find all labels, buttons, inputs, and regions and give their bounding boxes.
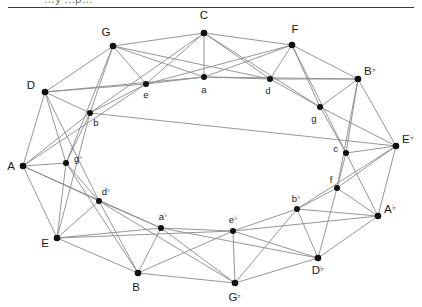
graph-edge [45, 92, 99, 201]
graph-edge [204, 33, 292, 45]
graph-node-label-D: D [27, 79, 35, 91]
graph-node-label-B: B [132, 281, 140, 293]
graph-edge [235, 258, 318, 283]
graph-edge [45, 46, 113, 92]
nodes-group: CGFDB♭AE♭EA♭BD♭G♭aedbgg♭cd♭fa♭b♭e♭ [7, 9, 413, 303]
graph-node-label-E: E [41, 237, 49, 249]
graph-node-C[interactable] [201, 30, 208, 37]
graph-node-label-G: G [102, 26, 111, 38]
graph-node-B[interactable] [135, 270, 142, 277]
graph-node-Eb[interactable] [393, 143, 400, 150]
graph-node-label-Bb: B♭ [364, 65, 376, 77]
graph-node-gb[interactable] [63, 160, 69, 166]
graph-edge [297, 209, 318, 258]
graph-node-label-gb: g♭ [74, 153, 82, 164]
graph-node-f[interactable] [334, 185, 340, 191]
graph-edge [146, 77, 204, 84]
graph-node-a[interactable] [201, 74, 207, 80]
graph-node-label-d: d [265, 85, 270, 96]
graph-edge [45, 92, 90, 113]
graph-node-E[interactable] [54, 235, 61, 242]
graph-edge [138, 231, 233, 273]
graph-node-b[interactable] [87, 110, 93, 116]
figure-canvas: …y …p… CGFDB♭AE♭EA♭BD♭G♭aedbgg♭cd♭fa♭b♭e… [0, 0, 422, 307]
graph-edge [204, 45, 292, 77]
graph-edge [337, 188, 378, 216]
graph-edge [346, 146, 396, 153]
graph-edge [297, 188, 337, 209]
graph-node-label-Db: D♭ [312, 264, 324, 276]
graph-edge [57, 113, 90, 238]
graph-node-g[interactable] [317, 104, 323, 110]
graph-edge [320, 79, 358, 107]
graph-edge [23, 166, 57, 238]
graph-node-label-C: C [200, 9, 208, 21]
graph-edge [57, 238, 138, 273]
graph-node-label-A: A [7, 160, 15, 172]
graph-node-label-F: F [291, 23, 298, 35]
graph-edge [45, 77, 204, 92]
graph-edge [318, 188, 337, 258]
graph-node-label-g: g [311, 113, 316, 124]
graph-edge [270, 79, 320, 107]
graph-edge [292, 45, 358, 79]
graph-node-F[interactable] [289, 42, 296, 49]
graph-node-Bb[interactable] [355, 76, 362, 83]
graph-node-label-e: e [143, 89, 148, 100]
graph-node-eb[interactable] [230, 228, 236, 234]
graph-node-label-f: f [330, 174, 333, 185]
graph-edge [318, 216, 378, 258]
graph-edge [233, 231, 235, 283]
graph-node-G[interactable] [110, 43, 117, 50]
graph-edge [337, 79, 358, 188]
graph-node-label-c: c [333, 143, 338, 154]
graph-node-label-Gb: G♭ [229, 291, 242, 303]
tonnetz-graph: CGFDB♭AE♭EA♭BD♭G♭aedbgg♭cd♭fa♭b♭e♭ [0, 0, 422, 307]
graph-node-D[interactable] [42, 89, 49, 96]
graph-node-bb[interactable] [294, 206, 300, 212]
graph-edge [99, 201, 161, 228]
graph-node-label-ab: a♭ [159, 211, 167, 222]
graph-node-e[interactable] [143, 81, 149, 87]
graph-node-label-bb: b♭ [292, 193, 300, 204]
graph-node-label-eb: e♭ [229, 214, 237, 225]
graph-node-label-Eb: E♭ [402, 133, 414, 145]
graph-edge [161, 228, 318, 258]
graph-node-label-b: b [93, 117, 98, 128]
graph-edge [57, 201, 99, 238]
graph-edge [161, 228, 235, 283]
graph-edge [57, 163, 66, 238]
graph-node-label-db: d♭ [102, 186, 110, 197]
graph-edge [292, 45, 346, 153]
graph-node-label-Ab: A♭ [384, 203, 396, 215]
graph-edge [113, 33, 204, 46]
graph-edge [23, 163, 66, 166]
graph-node-c[interactable] [343, 150, 349, 156]
graph-node-d[interactable] [267, 76, 273, 82]
graph-node-db[interactable] [96, 198, 102, 204]
graph-edge [99, 201, 138, 273]
graph-edge [23, 92, 45, 166]
graph-node-ab[interactable] [158, 225, 164, 231]
graph-edge [297, 209, 378, 216]
graph-edge [161, 228, 233, 231]
graph-edge [204, 33, 320, 107]
graph-node-A[interactable] [20, 163, 27, 170]
graph-node-Ab[interactable] [375, 213, 382, 220]
graph-node-label-a: a [201, 84, 207, 95]
graph-node-Db[interactable] [315, 255, 322, 262]
graph-node-Gb[interactable] [232, 280, 239, 287]
